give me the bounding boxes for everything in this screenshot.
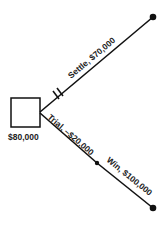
settle-branch-line (40, 17, 153, 112)
win-branch-label: Win, $100,000 (105, 155, 155, 198)
decision-node (11, 98, 40, 127)
decision-node-value: $80,000 (8, 132, 39, 142)
settle-terminal-node (150, 14, 157, 21)
prune-mark-icon (53, 88, 63, 99)
trial-branch-label: Trial, –$20,000 (46, 112, 96, 158)
decision-tree-diagram: Settle, $70,000 Trial, –$20,000 Win, $10… (0, 0, 168, 225)
win-terminal-node (150, 205, 157, 212)
settle-branch-label: Settle, $70,000 (66, 35, 118, 81)
